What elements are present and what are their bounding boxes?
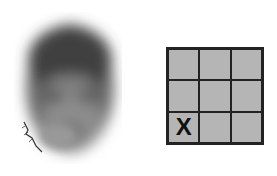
- blurred-face-image: [14, 12, 122, 164]
- grid-cell[interactable]: [199, 49, 230, 80]
- grid-cell[interactable]: [199, 80, 230, 111]
- tic-tac-toe-grid: X: [166, 47, 264, 145]
- grid-cell-marked[interactable]: X: [168, 112, 199, 143]
- grid-cell[interactable]: [231, 49, 262, 80]
- grid-cell[interactable]: [168, 49, 199, 80]
- grid-cell[interactable]: [199, 112, 230, 143]
- grid-cell[interactable]: [231, 80, 262, 111]
- grid-cell[interactable]: [168, 80, 199, 111]
- grid-cell[interactable]: [231, 112, 262, 143]
